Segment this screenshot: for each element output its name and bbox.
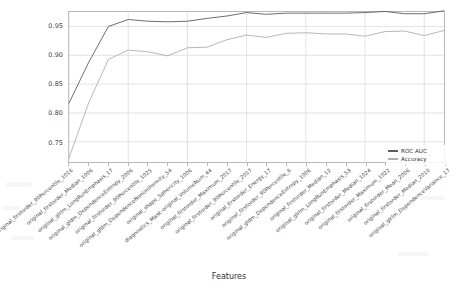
x-axis-tick-mark	[88, 163, 89, 166]
y-axis-tick-label: 0.80	[0, 109, 63, 117]
legend-swatch-accuracy	[388, 158, 398, 159]
x-axis-tick-mark	[286, 163, 287, 166]
background-artifact	[6, 182, 32, 187]
series-lines	[69, 12, 444, 162]
x-axis-tick-label: original_firstorder_Maximum_1022	[296, 167, 392, 249]
x-axis-tick-mark	[247, 163, 248, 166]
x-axis-tick-label: original_glrlm_DependenceVariance_17	[355, 167, 451, 249]
x-axis-tick-label: original_glrlm_LongRunEmphasis_53	[256, 167, 352, 249]
x-axis-tick-mark	[147, 163, 148, 166]
x-axis-tick-mark	[346, 163, 347, 166]
x-axis-tick-mark	[68, 163, 69, 166]
background-artifact	[2, 206, 20, 210]
x-axis-tick-mark	[187, 163, 188, 166]
x-axis-tick-mark	[366, 163, 367, 166]
legend: ROC AUC Accuracy	[386, 145, 448, 165]
legend-label-roc-auc: ROC AUC	[401, 147, 427, 155]
x-axis-tick-mark	[207, 163, 208, 166]
x-axis-tick-mark	[266, 163, 267, 166]
background-artifact	[420, 196, 444, 200]
x-axis-tick-label: original_gldm_DependenceNonUniformity_54	[77, 167, 173, 249]
x-axis-tick-label: original_firstorder_Maximum_2017	[137, 167, 233, 249]
x-axis-tick-mark	[167, 163, 168, 166]
plot-area	[68, 11, 445, 163]
x-axis-tick-label: original_firstorder_Median_2010	[335, 167, 431, 249]
series-line-0	[69, 11, 444, 103]
legend-swatch-roc-auc	[388, 150, 398, 151]
x-axis-title: Features	[0, 272, 458, 281]
y-axis-tick-label: 0.90	[0, 51, 63, 59]
x-axis-tick-label: original_firstorder_Energy_17	[176, 167, 272, 249]
x-axis-tick-label: original_firstorder_Mean_2006	[315, 167, 411, 249]
background-artifact	[12, 236, 34, 240]
x-axis-tick-label: original_firstorder_Median_1024	[276, 167, 372, 249]
x-axis-tick-label: original_firstorder_Median_12	[236, 167, 332, 249]
x-axis-tick-label: original_shape_Sphericity_1006	[97, 167, 193, 249]
x-axis-tick-mark	[108, 163, 109, 166]
x-axis-tick-label: original_gldm_DependenceEntropy_2006	[38, 167, 134, 249]
x-axis-tick-mark	[326, 163, 327, 166]
y-axis-tick-label: 0.95	[0, 22, 63, 30]
chart-figure: 0.750.800.850.900.95 original_firstorder…	[0, 0, 458, 294]
x-axis-tick-label: original_gldm_DependenceEntropy_1006	[216, 167, 312, 249]
x-axis-tick-label: original_firstorder_90Percentile_1025	[57, 167, 153, 249]
legend-item-roc-auc: ROC AUC	[388, 147, 446, 155]
y-axis-tick-label: 0.85	[0, 80, 63, 88]
x-axis-tick-mark	[128, 163, 129, 166]
x-axis-tick-mark	[306, 163, 307, 166]
legend-label-accuracy: Accuracy	[401, 155, 427, 163]
x-axis-tick-label: original_firstorder_90Percentile_2017	[157, 167, 253, 249]
background-artifact	[398, 252, 428, 256]
legend-item-accuracy: Accuracy	[388, 155, 446, 163]
x-axis-tick-mark	[227, 163, 228, 166]
x-axis-tick-label: original_firstorder_90Percentile_8	[196, 167, 292, 249]
x-axis-tick-label: diagnostics_Mask-original_VolumeNum_44	[117, 167, 213, 249]
y-axis-tick-label: 0.75	[0, 139, 63, 147]
series-line-1	[69, 30, 444, 158]
